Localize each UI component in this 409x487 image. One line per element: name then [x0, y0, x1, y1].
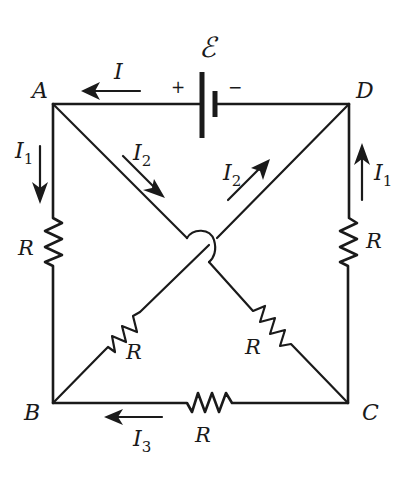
wire-diagonal-B-to-D-with-resistor [53, 245, 209, 403]
wire-diagonal-D-upper [217, 104, 349, 238]
resistor-label-right: R [365, 229, 382, 253]
wire-right-with-resistor [340, 104, 357, 403]
wire-bottom-with-resistor [53, 393, 348, 412]
wire-crossover-hump [187, 231, 215, 262]
resistor-label-diag-AC: R [244, 335, 261, 359]
current-label-I: I [113, 59, 124, 84]
emf-label: ℰ [199, 31, 219, 64]
current-label-I1-left: I1 [14, 138, 33, 168]
arrow-left-icon [104, 409, 162, 425]
node-label-A: A [30, 78, 48, 103]
arrow-left-icon [81, 82, 140, 100]
wire-left-with-resistor [45, 104, 62, 403]
current-label-I3: I3 [132, 426, 151, 456]
circuit-diagram: A D B C ℰ + − R R R R R I I1 I1 I2 I2 I3 [0, 0, 409, 487]
current-label-I1-right: I1 [373, 160, 392, 190]
node-label-D: D [355, 78, 374, 103]
wire-diagonal-A-upper [53, 104, 187, 238]
node-label-C: C [362, 400, 379, 425]
battery-plus-sign: + [171, 77, 185, 97]
resistor-label-left: R [17, 236, 34, 260]
resistor-label-diag-BD: R [125, 340, 142, 364]
resistor-label-bottom: R [194, 423, 211, 447]
arrow-up-icon [354, 143, 370, 200]
battery-minus-sign: − [228, 77, 242, 97]
node-label-B: B [23, 400, 40, 425]
current-label-I2-A-diagonal: I2 [132, 140, 151, 170]
arrow-down-icon [32, 146, 48, 204]
wire-diagonal-A-to-C-with-resistor [209, 262, 348, 403]
current-label-I2-D-diagonal: I2 [222, 160, 241, 190]
